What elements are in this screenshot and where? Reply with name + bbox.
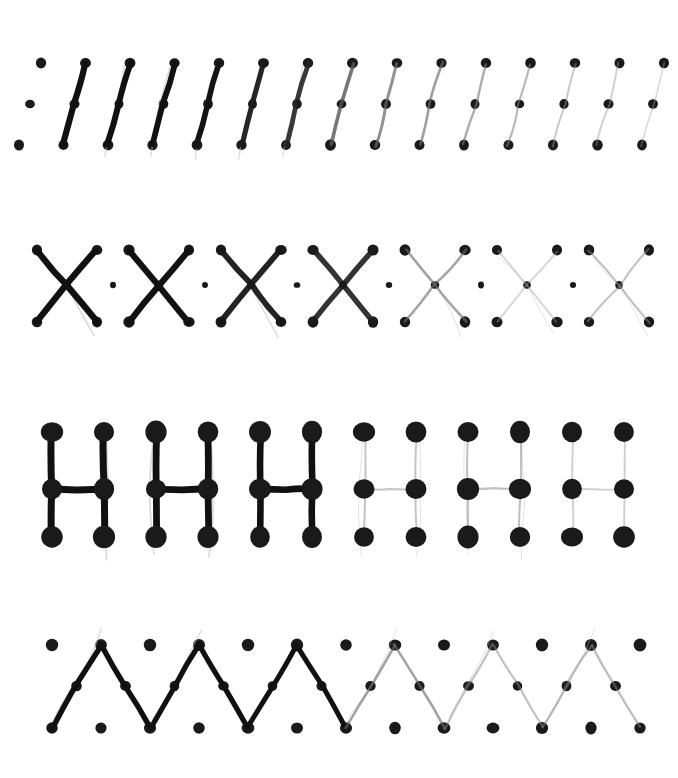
grid-dot-bottom	[95, 722, 106, 733]
grid-dot-tl	[145, 421, 166, 444]
grid-dot-mr	[94, 478, 114, 500]
grid-dot-bl	[250, 526, 270, 548]
grid-dot-top	[525, 58, 536, 69]
grid-dot-top	[340, 639, 352, 650]
separator-dot	[294, 282, 301, 288]
grid-dot-mr	[614, 479, 634, 498]
grid-dot-tr	[552, 245, 562, 256]
grid-dot-top	[634, 639, 647, 652]
grid-dot-ml	[354, 479, 375, 498]
grid-dot-tr	[406, 421, 427, 442]
grid-dot-mid	[25, 100, 35, 109]
grid-dot-top	[242, 639, 254, 651]
separator-dot	[478, 282, 484, 289]
grid-dot-top	[438, 639, 450, 650]
grid-dot-bl	[457, 526, 478, 549]
separator-dot	[110, 282, 116, 288]
grid-dot-br	[406, 527, 427, 547]
grid-dot-br	[510, 527, 530, 547]
stroke-grid-svg	[0, 0, 678, 778]
grid-dot-mr	[406, 479, 427, 499]
grid-dot-tr	[94, 422, 114, 442]
grid-dot-bottom	[585, 722, 596, 735]
grid-dot-bl	[41, 526, 63, 547]
grid-dot-ml	[457, 478, 479, 500]
separator-dot	[202, 282, 208, 288]
grid-dot-top	[615, 58, 625, 68]
grid-dot-bl	[354, 527, 374, 547]
grid-dot-tl	[353, 422, 375, 441]
grid-dot-ml	[146, 479, 166, 498]
grid-dot-bl	[561, 527, 583, 546]
separator-dot	[570, 282, 576, 288]
grid-dot-tl	[41, 422, 63, 442]
grid-dot-ml	[249, 479, 271, 500]
figure-canvas	[0, 0, 678, 778]
grid-dot-ml	[562, 479, 582, 499]
grid-dot-bottom	[389, 722, 400, 735]
grid-dot-tl	[457, 422, 478, 442]
grid-dot-tl	[249, 421, 271, 443]
grid-dot-tr	[614, 422, 634, 442]
grid-dot-tr	[510, 421, 530, 444]
grid-dot-top	[46, 639, 58, 651]
grid-dot-top	[536, 639, 548, 652]
grid-dot-ml	[42, 479, 62, 500]
separator-dot	[386, 282, 392, 288]
grid-dot-br	[613, 526, 635, 547]
grid-dot-top	[144, 639, 156, 652]
grid-dot-mr	[198, 479, 218, 500]
grid-dot-tr	[302, 421, 322, 443]
grid-dot-bottom	[14, 139, 24, 150]
grid-dot-bl	[145, 526, 166, 548]
grid-dot-tl	[562, 422, 582, 443]
grid-dot-mr	[509, 479, 531, 499]
grid-dot-br	[93, 526, 115, 548]
grid-dot-top	[36, 58, 46, 69]
grid-dot-tr	[198, 422, 219, 443]
grid-dot-mr	[301, 478, 322, 500]
grid-dot-bottom	[193, 722, 205, 733]
grid-dot-bottom	[487, 723, 500, 734]
grid-dot-br	[460, 316, 471, 327]
grid-dot-tr	[644, 244, 654, 256]
grid-dot-br	[302, 526, 322, 548]
grid-dot-bottom	[291, 722, 303, 733]
grid-dot-br	[197, 526, 218, 548]
